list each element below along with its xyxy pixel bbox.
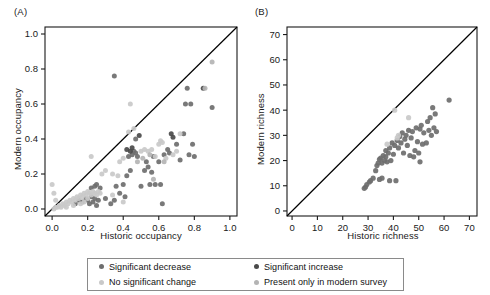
svg-text:0.8: 0.8 xyxy=(25,63,38,74)
svg-text:0.2: 0.2 xyxy=(25,168,38,179)
legend: Significant decrease Significant increas… xyxy=(87,258,404,291)
panel-a: (A) 0.00.20.40.60.81.00.00.20.40.60.81.0… xyxy=(0,0,245,252)
legend-item-present-only-modern: Present only in modern survey xyxy=(243,275,405,290)
figure-root: (A) 0.00.20.40.60.81.00.00.20.40.60.81.0… xyxy=(0,0,490,295)
panel-b-plot: 010203040506070010203040506070 xyxy=(245,0,490,252)
legend-dot-no-significant-change xyxy=(99,280,104,285)
panel-a-x-axis-title: Historic occupancy xyxy=(45,230,237,241)
svg-text:20: 20 xyxy=(269,155,280,166)
svg-text:0.0: 0.0 xyxy=(25,203,38,214)
svg-text:30: 30 xyxy=(269,130,280,141)
svg-text:40: 40 xyxy=(269,105,280,116)
panel-a-y-axis-title: Modern occupancy xyxy=(12,88,23,170)
legend-label-present-only-modern: Present only in modern survey xyxy=(264,277,387,287)
svg-text:70: 70 xyxy=(269,29,280,40)
legend-label-significant-increase: Significant increase xyxy=(264,262,343,272)
legend-dot-significant-decrease xyxy=(99,264,104,269)
panel-b-y-axis-title: Modern richness xyxy=(255,93,266,165)
panel-b-x-axis-title: Historic richness xyxy=(287,230,479,241)
svg-text:10: 10 xyxy=(269,180,280,191)
legend-dot-present-only-modern xyxy=(254,280,259,285)
panel-a-plot: 0.00.20.40.60.81.00.00.20.40.60.81.0 xyxy=(0,0,245,252)
svg-text:0: 0 xyxy=(275,205,280,216)
svg-text:50: 50 xyxy=(269,79,280,90)
svg-text:0.4: 0.4 xyxy=(25,133,38,144)
panel-b: (B) 010203040506070010203040506070 Histo… xyxy=(245,0,490,252)
legend-label-no-significant-change: No significant change xyxy=(109,277,196,287)
svg-text:0.6: 0.6 xyxy=(25,98,38,109)
legend-dot-significant-increase xyxy=(254,264,259,269)
legend-item-significant-decrease: Significant decrease xyxy=(88,259,243,274)
legend-label-significant-decrease: Significant decrease xyxy=(109,262,191,272)
legend-item-no-significant-change: No significant change xyxy=(88,275,243,290)
svg-text:1.0: 1.0 xyxy=(25,28,38,39)
legend-item-significant-increase: Significant increase xyxy=(243,259,405,274)
svg-text:60: 60 xyxy=(269,54,280,65)
